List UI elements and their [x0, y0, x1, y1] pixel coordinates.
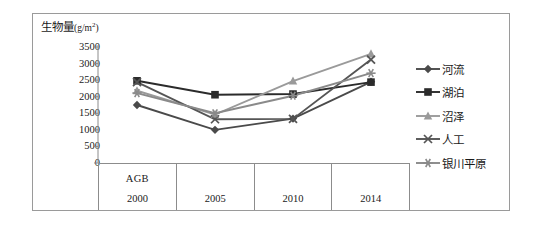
legend-item-银川平原[interactable]: 银川平原 [415, 151, 507, 175]
data-point-diamond [424, 65, 432, 73]
legend-marker-triangle-icon [415, 109, 441, 123]
y-tick-label: 3500 [36, 42, 100, 52]
x-axis-table: AGB2000200520102014 [98, 163, 410, 210]
data-point-star [423, 159, 432, 167]
legend-marker-x-icon [415, 132, 441, 146]
y-tick-label: 1500 [36, 108, 100, 118]
legend-item-湖泊[interactable]: 湖泊 [415, 81, 507, 105]
legend-label: 银川平原 [442, 155, 486, 171]
x-axis-column: 2010 [255, 164, 333, 210]
y-axis-title: 生物量(g/m2) [41, 18, 99, 34]
y-axis-unit: (g/m2) [74, 23, 99, 33]
x-axis-column: 2014 [332, 164, 410, 210]
x-axis-column: AGB2000 [98, 164, 177, 210]
y-axis-unit-open: (g/m [74, 23, 92, 33]
y-axis-title-text: 生物量 [41, 21, 74, 33]
legend-label: 沼泽 [442, 108, 464, 124]
y-axis-unit-close: ) [95, 23, 98, 33]
legend-marker-star-icon [415, 156, 441, 170]
x-axis-column: 2005 [177, 164, 255, 210]
data-point-square [424, 88, 432, 96]
legend-item-沼泽[interactable]: 沼泽 [415, 104, 507, 128]
x-axis-year-label: 2005 [177, 193, 254, 204]
chart-legend: 河流湖泊沼泽人工银川平原 [415, 57, 507, 175]
y-tick-label: 3000 [36, 59, 100, 69]
y-tick-label: 2500 [36, 75, 100, 85]
x-axis-year-label: 2014 [332, 193, 409, 204]
y-tick-label: 0 [36, 158, 100, 168]
legend-item-人工[interactable]: 人工 [415, 128, 507, 152]
y-tick-label: 2000 [36, 92, 100, 102]
y-tick-label: 500 [36, 141, 100, 151]
legend-label: 湖泊 [442, 84, 464, 100]
legend-label: 人工 [442, 131, 464, 147]
x-axis-year-label: 2000 [99, 193, 176, 204]
y-tick-label: 1000 [36, 125, 100, 135]
legend-item-河流[interactable]: 河流 [415, 57, 507, 81]
chart-figure: 生物量(g/m2) 3500300025002000150010005000 A… [0, 0, 547, 225]
x-axis-agb-label: AGB [99, 173, 176, 184]
legend-marker-diamond-icon [415, 62, 441, 76]
legend-label: 河流 [442, 61, 464, 77]
legend-marker-square-icon [415, 85, 441, 99]
x-axis-year-label: 2010 [255, 193, 332, 204]
